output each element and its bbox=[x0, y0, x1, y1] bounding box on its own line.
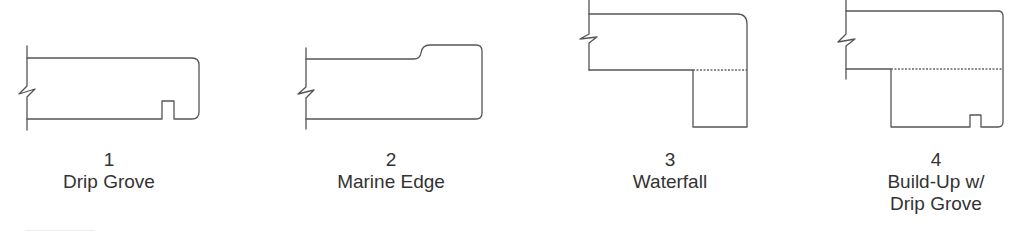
profile-4-caption: 4 Build-Up w/ Drip Grove bbox=[876, 149, 996, 215]
profile-3-caption: 3 Waterfall bbox=[620, 149, 720, 193]
profile-2-marine-edge-drawing bbox=[298, 45, 482, 129]
slab-outline bbox=[27, 58, 199, 119]
profile-2-name: Marine Edge bbox=[321, 171, 461, 193]
break-line-icon bbox=[298, 48, 314, 129]
break-line-icon bbox=[580, 0, 597, 70]
countertop-edge-profiles-diagram bbox=[0, 0, 1023, 233]
profile-1-drip-groove-drawing bbox=[19, 46, 199, 130]
profile-4-build-up-drip-groove-drawing bbox=[838, 0, 1003, 127]
profile-2-caption: 2 Marine Edge bbox=[321, 149, 461, 193]
profile-3-number: 3 bbox=[620, 149, 720, 171]
profile-1-name: Drip Grove bbox=[54, 171, 164, 193]
profile-4-name-line2: Drip Grove bbox=[876, 193, 996, 215]
slab-outline bbox=[589, 14, 747, 127]
profile-4-name: Build-Up w/ bbox=[876, 171, 996, 193]
profile-1-caption: 1 Drip Grove bbox=[54, 149, 164, 193]
profile-4-number: 4 bbox=[876, 149, 996, 171]
profile-3-waterfall-drawing bbox=[580, 0, 747, 127]
break-line-icon bbox=[838, 0, 855, 79]
profile-1-number: 1 bbox=[54, 149, 164, 171]
profile-2-number: 2 bbox=[321, 149, 461, 171]
profile-3-name: Waterfall bbox=[620, 171, 720, 193]
faint-underline-mark bbox=[25, 230, 95, 231]
slab-outline bbox=[306, 45, 482, 119]
